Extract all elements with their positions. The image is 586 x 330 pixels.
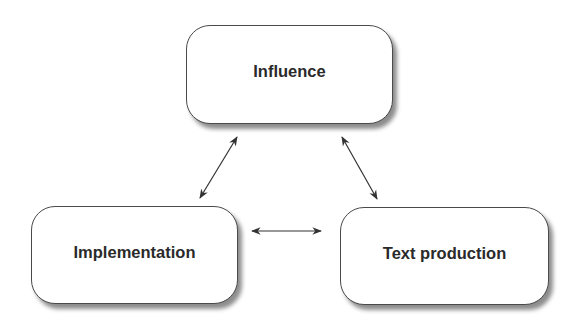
arrow-influence-text-production — [342, 137, 377, 199]
node-text-production: Text production — [340, 207, 549, 305]
node-label-implementation: Implementation — [74, 243, 196, 262]
node-label-text-production: Text production — [383, 244, 506, 263]
triangle-diagram: Influence Implementation Text production — [0, 0, 586, 330]
arrow-influence-implementation — [200, 137, 237, 198]
node-implementation: Implementation — [31, 206, 238, 304]
node-label-influence: Influence — [253, 62, 325, 81]
node-influence: Influence — [186, 25, 393, 124]
